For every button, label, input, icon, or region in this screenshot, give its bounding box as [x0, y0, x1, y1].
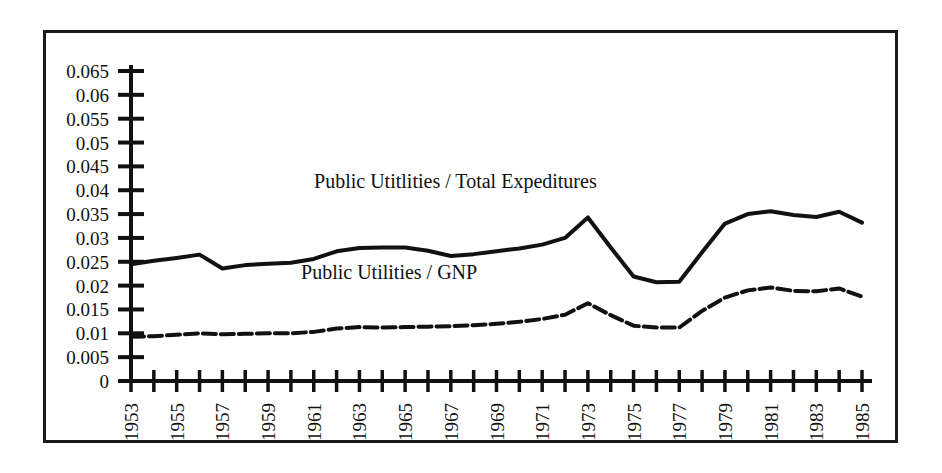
x-tick-label: 1981	[761, 403, 782, 440]
x-tick-label: 1965	[395, 403, 416, 440]
y-tick-label: 0.03	[76, 228, 109, 249]
series-label-0: Public Utitlities / Total Expeditures	[314, 170, 597, 193]
y-tick-label: 0.06	[76, 85, 109, 106]
y-tick-label: 0.005	[66, 347, 109, 368]
y-tick-label: 0.055	[66, 109, 109, 130]
x-tick-label: 1971	[532, 403, 553, 440]
x-tick-label: 1961	[304, 403, 325, 440]
y-tick-label: 0.035	[66, 204, 109, 225]
x-tick-label: 1963	[349, 403, 370, 440]
y-tick-label: 0.05	[76, 133, 109, 154]
y-tick-label: 0.02	[76, 276, 109, 297]
y-tick-label: 0.04	[76, 180, 110, 201]
y-tick-label: 0.01	[76, 323, 109, 344]
x-tick-label: 1969	[487, 403, 508, 440]
chart-frame: 00.0050.010.0150.020.0250.030.0350.040.0…	[43, 30, 898, 443]
x-tick-label: 1957	[212, 403, 233, 440]
x-tick-label: 1973	[578, 403, 599, 440]
y-tick-label: 0	[100, 371, 110, 392]
x-tick-label: 1983	[806, 403, 827, 440]
x-tick-label: 1975	[624, 403, 645, 440]
y-tick-label: 0.015	[66, 299, 109, 320]
y-tick-label: 0.045	[66, 156, 109, 177]
x-tick-label: 1959	[258, 403, 279, 440]
y-tick-label: 0.065	[66, 61, 109, 82]
x-tick-label: 1967	[441, 403, 462, 440]
x-tick-label: 1955	[167, 403, 188, 440]
series-label-1: Public Utilities / GNP	[301, 261, 477, 283]
x-tick-label: 1985	[852, 403, 873, 440]
x-tick-label: 1953	[121, 403, 142, 440]
x-tick-label: 1977	[669, 403, 690, 440]
series-line-0	[131, 211, 862, 282]
line-chart: 00.0050.010.0150.020.0250.030.0350.040.0…	[46, 33, 895, 440]
y-tick-label: 0.025	[66, 252, 109, 273]
x-tick-label: 1979	[715, 403, 736, 440]
series-line-1	[131, 288, 862, 337]
